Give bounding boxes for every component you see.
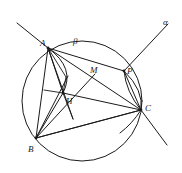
vertex-dot-B	[35, 137, 38, 140]
label-point-B: B	[28, 145, 34, 154]
label-point-M: M	[90, 66, 98, 75]
segment-B-to-foot-L	[36, 76, 68, 138]
label-point-H: H	[66, 97, 73, 106]
circumscribed-circle	[22, 41, 142, 161]
line-alpha-upper-right-ray	[124, 24, 168, 71]
line-C-lower-right-ray	[141, 110, 167, 145]
geometry-figure: A β α P M C H B	[0, 0, 182, 173]
segment-B-to-H	[36, 93, 63, 138]
segment-AB	[36, 48, 48, 138]
label-angle-beta: β	[73, 37, 77, 46]
line-A-to-P	[48, 48, 124, 71]
segment-B-to-M	[36, 74, 95, 138]
vertex-dot-H	[62, 92, 65, 95]
label-line-alpha: α	[163, 18, 168, 27]
vertex-dot-A	[47, 47, 50, 50]
label-point-C: C	[145, 104, 151, 113]
vertex-dot-C	[140, 109, 143, 112]
label-point-P: P	[127, 67, 133, 76]
label-point-A: A	[40, 39, 46, 48]
arc-below-C	[120, 110, 141, 133]
vertex-dot-P	[123, 70, 126, 73]
segment-BC-duplicate	[36, 110, 141, 138]
